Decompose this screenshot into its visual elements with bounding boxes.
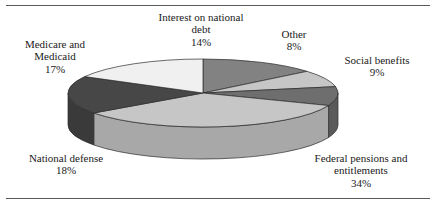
pie-top-face xyxy=(68,59,338,127)
slice-label-line1: Social benefits xyxy=(344,54,409,66)
bottom-rule-divider xyxy=(6,198,430,199)
slice-label-line2: entitlements xyxy=(334,164,388,176)
slice-percent: 18% xyxy=(4,164,128,176)
slice-label-line1: National defense xyxy=(29,152,103,164)
slice-percent: 34% xyxy=(289,177,433,189)
slice-label-line2: Medicaid xyxy=(34,50,76,62)
slice-percent: 8% xyxy=(256,40,332,52)
slice-percent: 9% xyxy=(321,66,433,78)
slice-label-line1: Other xyxy=(281,28,306,40)
slice-label-social-benefits: Social benefits 9% xyxy=(321,54,433,79)
slice-label-line1: Medicare and xyxy=(25,38,85,50)
slice-label-interest-on-national-debt: Interest on national debt 14% xyxy=(131,11,271,48)
slice-percent: 14% xyxy=(131,36,271,48)
slice-label-line1: Federal pensions and xyxy=(315,152,408,164)
pie-chart-figure: Interest on national debt 14% Other 8% S… xyxy=(0,0,436,205)
slice-label-national-defense: National defense 18% xyxy=(4,152,128,177)
slice-label-line1: Interest on national xyxy=(159,11,244,23)
slice-label-line2: debt xyxy=(192,23,211,35)
slice-label-federal-pensions-and-entitlements: Federal pensions and entitlements 34% xyxy=(289,152,433,189)
slice-label-other: Other 8% xyxy=(256,28,332,53)
slice-label-medicare-and-medicaid: Medicare and Medicaid 17% xyxy=(3,38,107,75)
slice-percent: 17% xyxy=(3,63,107,75)
